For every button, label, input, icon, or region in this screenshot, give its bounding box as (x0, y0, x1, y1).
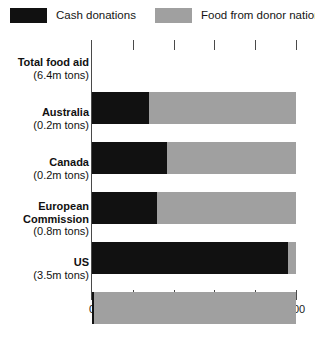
x-tick-mark-top (255, 40, 256, 50)
bar-segment-food (157, 192, 296, 224)
x-tick-mark-top (296, 40, 297, 50)
category-sublabel: (0.2m tons) (0, 119, 89, 132)
category-sublabel: (0.2m tons) (0, 169, 89, 182)
bar-segment-cash (92, 92, 149, 124)
category-label-canada: Canada (0.2m tons) (0, 156, 89, 181)
bar-segment-cash (92, 142, 167, 174)
legend-swatch-cash-icon (10, 8, 47, 23)
bar-segment-cash (92, 192, 157, 224)
x-tick-mark-bottom (296, 290, 297, 300)
category-label-australia: Australia (0.2m tons) (0, 106, 89, 131)
category-name: Australia (0, 106, 89, 119)
category-name: Total food aid (0, 56, 89, 69)
stacked-bar-chart: Cash donations Food from donor nations T… (0, 0, 315, 342)
bar-row (92, 192, 296, 224)
bar-segment-food (94, 292, 296, 324)
bar-row (92, 242, 296, 274)
category-label-european-commission: European Commission (0.8m tons) (0, 200, 89, 238)
category-name: US (0, 256, 89, 269)
x-tick-mark-top (214, 40, 215, 50)
bar-row (92, 92, 296, 124)
x-tick-mark-top (91, 40, 92, 50)
chart-legend: Cash donations Food from donor nations (0, 0, 315, 32)
legend-label-food: Food from donor nations (201, 8, 315, 23)
plot-area: 020406080100 (92, 40, 296, 300)
category-label-us: US (3.5m tons) (0, 256, 89, 281)
bar-row (92, 142, 296, 174)
x-tick-mark-top (133, 40, 134, 50)
category-name: European (0, 200, 89, 213)
legend-swatch-food-icon (155, 8, 192, 23)
category-name-line2: Commission (0, 213, 89, 226)
category-label-total-food-aid: Total food aid (6.4m tons) (0, 56, 89, 81)
legend-label-cash: Cash donations (56, 8, 136, 23)
category-sublabel: (3.5m tons) (0, 269, 89, 282)
category-name: Canada (0, 156, 89, 169)
bar-segment-cash (92, 242, 288, 274)
x-tick-mark-top (174, 40, 175, 50)
bar-row (92, 292, 296, 324)
bar-segment-food (288, 242, 296, 274)
category-sublabel: (0.8m tons) (0, 225, 89, 238)
legend-item-cash-donations: Cash donations (10, 8, 136, 23)
bar-segment-food (167, 142, 296, 174)
category-sublabel: (6.4m tons) (0, 69, 89, 82)
legend-item-food-from-donor-nations: Food from donor nations (155, 8, 315, 23)
bar-segment-food (149, 92, 296, 124)
